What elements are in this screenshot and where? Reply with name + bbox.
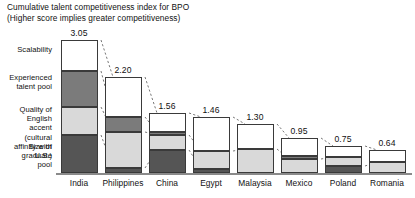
bar-segment-scalability[interactable] (149, 113, 186, 132)
bar-segment-scalability[interactable] (105, 77, 142, 117)
bar-mexico[interactable] (281, 0, 318, 198)
bar-value-label-india: 3.05 (53, 28, 105, 38)
bar-romania[interactable] (369, 0, 406, 198)
bar-segment-quality-of-english-accent[interactable] (281, 159, 318, 173)
x-axis-baseline (56, 173, 412, 175)
bar-value-label-philippines: 2.20 (97, 65, 149, 75)
bar-malaysia[interactable] (237, 0, 274, 198)
bar-segment-quality-of-english-accent[interactable] (61, 107, 98, 135)
x-axis-label-romania: Romania (359, 178, 415, 188)
chart-figure: Cumulative talent competitiveness index … (0, 0, 415, 198)
bar-segment-experienced-talent-pool[interactable] (105, 117, 142, 132)
bar-segment-scalability[interactable] (369, 150, 406, 162)
bar-egypt[interactable] (193, 0, 230, 198)
bar-china[interactable] (149, 0, 186, 198)
bar-segment-size-of-graduate-pool[interactable] (61, 135, 98, 173)
bar-poland[interactable] (325, 0, 362, 198)
plot-area: 3.05India2.20Philippines1.56China1.46Egy… (0, 0, 415, 198)
bar-segment-scalability[interactable] (61, 40, 98, 71)
bar-segment-quality-of-english-accent[interactable] (105, 132, 142, 168)
bar-segment-quality-of-english-accent[interactable] (369, 162, 406, 173)
bar-segment-quality-of-english-accent[interactable] (193, 151, 230, 169)
bar-segment-quality-of-english-accent[interactable] (237, 149, 274, 173)
bar-segment-scalability[interactable] (281, 138, 318, 156)
bar-segment-quality-of-english-accent[interactable] (325, 157, 362, 166)
bar-segment-scalability[interactable] (237, 124, 274, 149)
bar-segment-size-of-graduate-pool[interactable] (149, 150, 186, 173)
bar-value-label-romania: 0.64 (361, 138, 413, 148)
bar-value-label-malaysia: 1.30 (229, 112, 281, 122)
bar-segment-scalability[interactable] (325, 146, 362, 157)
bar-segment-size-of-graduate-pool[interactable] (325, 166, 362, 173)
bar-segment-quality-of-english-accent[interactable] (149, 135, 186, 150)
bar-segment-experienced-talent-pool[interactable] (61, 71, 98, 107)
bar-philippines[interactable] (105, 0, 142, 198)
bar-segment-scalability[interactable] (193, 117, 230, 151)
